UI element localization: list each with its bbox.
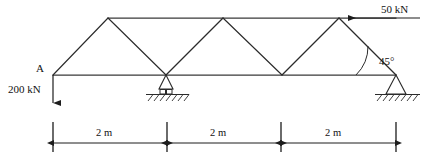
angle-arc-45 <box>356 46 368 75</box>
load-label-50kn: 50 kN <box>381 4 408 15</box>
dimension-label-1: 2 m <box>96 128 112 139</box>
dimension-label-2: 2 m <box>210 128 226 139</box>
angle-label-45deg: 45° <box>379 56 394 67</box>
diagonal-members <box>53 18 396 75</box>
truss-drawing-canvas <box>0 0 433 165</box>
pin-support-right <box>375 75 420 101</box>
truss-diagram: A 200 kN 50 kN 45° 2 m 2 m 2 m <box>0 0 433 165</box>
dimension-label-3: 2 m <box>325 128 341 139</box>
load-label-200kn: 200 kN <box>8 84 41 95</box>
roller-support-middle <box>146 75 189 101</box>
node-label-a: A <box>36 63 44 74</box>
